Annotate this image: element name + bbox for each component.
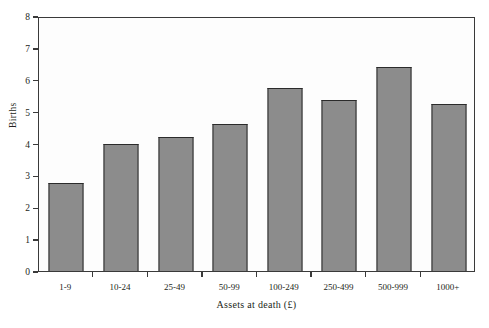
x-tick-label: 1-9 (37, 281, 93, 293)
y-tick-label: 2 (25, 201, 30, 215)
bar-slot (421, 18, 476, 271)
bar-slot (367, 18, 422, 271)
bar (267, 88, 302, 271)
y-tick-label: 3 (25, 169, 30, 183)
y-axis-title: Births (8, 102, 18, 128)
x-tick-label: 50-99 (201, 281, 257, 293)
y-tick-label: 4 (25, 138, 30, 152)
bar (431, 104, 466, 271)
bar (213, 124, 248, 271)
bar (322, 100, 357, 271)
bar-chart-figure: Births 012345678 1-910-2425-4950-99100-2… (0, 0, 489, 328)
x-tick-label: 100-249 (256, 281, 312, 293)
x-tick-label: 25-49 (147, 281, 203, 293)
x-tick-mark (92, 272, 93, 277)
x-tick-mark (420, 272, 421, 277)
x-tick-label: 500-999 (365, 281, 421, 293)
bar-slot (148, 18, 203, 271)
x-tick-mark (147, 272, 148, 277)
x-tick-mark (201, 272, 202, 277)
y-tick-label: 1 (25, 233, 30, 247)
bar (49, 183, 84, 271)
bar (158, 137, 193, 271)
y-tick-label: 0 (25, 265, 30, 279)
bar-slot (39, 18, 94, 271)
x-tick-mark (365, 272, 366, 277)
y-tick-label: 8 (25, 10, 30, 24)
bar (103, 144, 138, 272)
y-tick-label: 6 (25, 74, 30, 88)
x-tick-mark (256, 272, 257, 277)
x-tick-mark (310, 272, 311, 277)
bar-slot (203, 18, 258, 271)
bar-slot (258, 18, 313, 271)
y-tick-label: 5 (25, 106, 30, 120)
x-tick-label: 10-24 (92, 281, 148, 293)
bar-slot (94, 18, 149, 271)
y-tick-label: 7 (25, 42, 30, 56)
x-tick-label: 250-499 (310, 281, 366, 293)
bars-layer (39, 18, 474, 271)
plot-area (38, 17, 475, 272)
bar-slot (312, 18, 367, 271)
x-tick-label: 1000+ (420, 281, 476, 293)
bar (377, 67, 412, 271)
x-axis-title: Assets at death (£) (38, 299, 475, 310)
